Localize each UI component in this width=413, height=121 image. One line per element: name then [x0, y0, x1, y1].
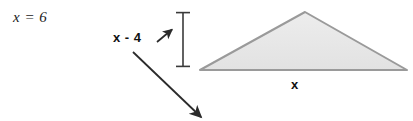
height-dimension-bar [176, 13, 190, 67]
down-right-arrow-icon [133, 52, 201, 117]
shaded-triangle [200, 12, 407, 70]
diagram-vector-layer [0, 0, 413, 121]
up-right-arrow-icon [157, 30, 172, 43]
diagram-canvas: x = 6 x - 4 x [0, 0, 413, 121]
